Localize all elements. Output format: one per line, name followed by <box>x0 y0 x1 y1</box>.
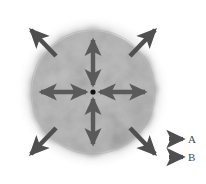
legend-label-b: B <box>188 151 195 163</box>
diffusion-diagram: A B <box>0 0 206 184</box>
legend-item-a: A <box>169 133 196 145</box>
diagram-canvas: A B <box>0 0 206 184</box>
legend: A B <box>169 133 196 163</box>
center-point <box>90 89 95 94</box>
legend-item-b: B <box>169 151 195 163</box>
legend-label-a: A <box>188 133 196 145</box>
